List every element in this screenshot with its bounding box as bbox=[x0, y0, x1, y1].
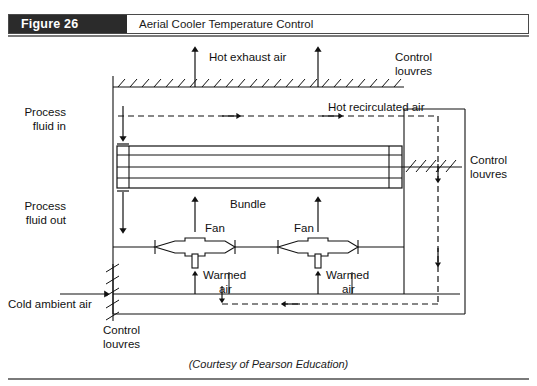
label-process-fluid-out-line1: Process bbox=[24, 200, 66, 212]
fan-left-blades bbox=[155, 238, 235, 256]
label-process-fluid-out-line2: fluid out bbox=[26, 214, 67, 226]
label-bundle: Bundle bbox=[230, 198, 266, 210]
right-louvre-hatching bbox=[406, 160, 456, 172]
label-cold-ambient-air: Cold ambient air bbox=[8, 298, 92, 310]
label-warmed-air-right-line2: air bbox=[342, 283, 355, 295]
label-process-fluid-in-line1: Process bbox=[24, 106, 66, 118]
aerial-cooler-diagram: Hot exhaust air Control louvres Hot reci… bbox=[0, 36, 537, 356]
figure-courtesy-caption: (Courtesy of Pearson Education) bbox=[0, 358, 537, 370]
fan-left-shaft bbox=[192, 254, 198, 268]
label-control-louvres-right-line1: Control bbox=[470, 154, 507, 166]
control-louvres-bottom bbox=[60, 264, 119, 321]
fan-left bbox=[113, 238, 270, 268]
label-control-louvres-right-line2: louvres bbox=[470, 168, 507, 180]
tube-bundle bbox=[117, 146, 402, 188]
figure-page: Figure 26 Aerial Cooler Temperature Cont… bbox=[0, 0, 537, 386]
label-hot-recirculated-air: Hot recirculated air bbox=[328, 101, 425, 113]
label-control-louvres-bottom-line1: Control bbox=[103, 324, 140, 336]
label-hot-exhaust-air: Hot exhaust air bbox=[209, 51, 287, 63]
top-louvre-hatching bbox=[118, 79, 401, 87]
figure-header: Figure 26 Aerial Cooler Temperature Cont… bbox=[8, 14, 529, 34]
label-fan-left: Fan bbox=[205, 222, 225, 234]
fan-right-shaft bbox=[315, 254, 321, 268]
fan-right-blades bbox=[278, 238, 358, 256]
label-control-louvres-top-line2: louvres bbox=[395, 65, 432, 77]
footer-divider-rule bbox=[8, 378, 529, 380]
diagram-labels: Hot exhaust air Control louvres Hot reci… bbox=[8, 51, 507, 350]
label-warmed-air-right-line1: Warmed bbox=[326, 269, 369, 281]
label-control-louvres-bottom-line2: louvres bbox=[103, 338, 140, 350]
label-warmed-air-left-line1: Warmed bbox=[203, 269, 246, 281]
label-process-fluid-in-line2: fluid in bbox=[33, 120, 66, 132]
label-warmed-air-left-line2: air bbox=[219, 283, 232, 295]
label-fan-right: Fan bbox=[294, 222, 314, 234]
control-louvres-right bbox=[402, 160, 462, 172]
figure-number: Figure 26 bbox=[9, 15, 127, 33]
figure-title: Aerial Cooler Temperature Control bbox=[127, 15, 313, 33]
label-control-louvres-top-line1: Control bbox=[395, 51, 432, 63]
fan-right bbox=[270, 238, 404, 268]
hot-recirculated-air-path bbox=[118, 116, 438, 304]
control-louvres-top bbox=[113, 79, 404, 87]
